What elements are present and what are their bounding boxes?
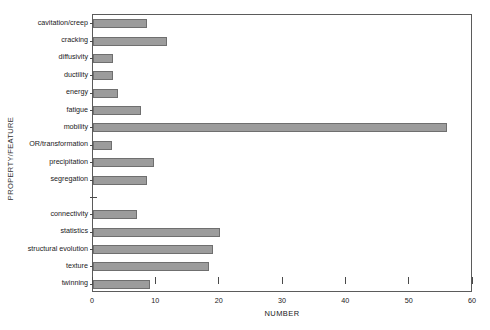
y-axis-tick-label: diffusivity bbox=[10, 53, 88, 61]
y-axis-tick-label: texture bbox=[10, 262, 88, 270]
y-axis-tick-labels: cavitation/creepcrackingdiffusivityducti… bbox=[10, 14, 88, 292]
x-axis-tick-label: 40 bbox=[330, 296, 360, 305]
y-axis-tick-label: structural evolution bbox=[10, 245, 88, 253]
x-axis-tick bbox=[92, 277, 93, 284]
y-axis-tick-label: connectivity bbox=[10, 210, 88, 218]
y-axis-tick-label: precipitation bbox=[10, 158, 88, 166]
bar bbox=[93, 210, 137, 219]
bar bbox=[93, 106, 141, 115]
x-axis-tick bbox=[472, 277, 473, 284]
bar bbox=[93, 37, 167, 46]
x-axis-tick-label: 10 bbox=[140, 296, 170, 305]
x-axis-tick bbox=[155, 277, 156, 284]
bar-chart: PROPERTY/FEATURE cavitation/creepcrackin… bbox=[0, 0, 490, 330]
y-axis-tick-label: statistics bbox=[10, 227, 88, 235]
x-axis-tick-label: 50 bbox=[394, 296, 424, 305]
bar bbox=[93, 228, 220, 237]
y-axis-tick-label: twinning bbox=[10, 279, 88, 287]
y-axis-tick-label: energy bbox=[10, 88, 88, 96]
bar bbox=[93, 176, 147, 185]
y-axis-tick-label: fatigue bbox=[10, 106, 88, 114]
y-axis-tick bbox=[90, 197, 97, 198]
x-axis-tick bbox=[282, 277, 283, 284]
bar bbox=[93, 141, 112, 150]
x-axis-tick-label: 0 bbox=[77, 296, 107, 305]
bar bbox=[93, 54, 113, 63]
x-axis-tick-label: 60 bbox=[457, 296, 487, 305]
bar bbox=[93, 123, 447, 132]
y-axis-tick-label: segregation bbox=[10, 175, 88, 183]
x-axis-tick-label: 30 bbox=[267, 296, 297, 305]
y-axis-tick-label: cracking bbox=[10, 36, 88, 44]
bar bbox=[93, 89, 118, 98]
y-axis-tick-label: OR/transformation bbox=[10, 140, 88, 148]
x-axis-tick bbox=[345, 277, 346, 284]
x-axis-title: NUMBER bbox=[92, 309, 472, 318]
x-axis-tick bbox=[218, 277, 219, 284]
x-axis-tick-label: 20 bbox=[204, 296, 234, 305]
bar bbox=[93, 262, 209, 271]
bar bbox=[93, 280, 150, 289]
bar bbox=[93, 158, 154, 167]
bar bbox=[93, 19, 147, 28]
y-axis-tick-label: ductility bbox=[10, 71, 88, 79]
bar bbox=[93, 245, 213, 254]
x-axis-tick bbox=[408, 277, 409, 284]
y-axis-tick-label: cavitation/creep bbox=[10, 19, 88, 27]
plot-area bbox=[92, 14, 472, 292]
bar bbox=[93, 71, 113, 80]
y-axis-tick-label: mobility bbox=[10, 123, 88, 131]
